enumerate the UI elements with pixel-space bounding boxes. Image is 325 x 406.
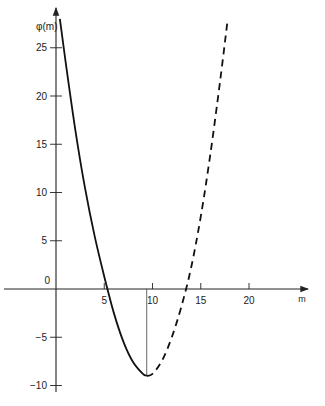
x-tick-label: 20	[243, 295, 255, 306]
y-axis-label: φ(m)	[36, 21, 57, 32]
x-axis-label: m	[298, 294, 306, 304]
y-tick-label: −10	[30, 380, 47, 391]
y-tick-label: 5	[41, 235, 47, 246]
labels: 5101520252015105−5−100φ(m)m	[30, 21, 306, 391]
series	[60, 19, 228, 376]
y-tick-label: 10	[36, 187, 48, 198]
solid-curve	[60, 19, 147, 376]
y-tick-label: 15	[36, 139, 48, 150]
y-tick-label: −5	[36, 332, 48, 343]
x-tick-label: 15	[195, 295, 207, 306]
phi-chart: 5101520252015105−5−100φ(m)m	[0, 0, 325, 406]
x-tick-label: 10	[147, 295, 159, 306]
x-tick-label: 5	[101, 295, 107, 306]
y-tick-label: 20	[36, 91, 48, 102]
dashed-curve	[147, 19, 228, 376]
y-tick-label: 25	[36, 42, 48, 53]
axes	[4, 8, 308, 392]
origin-label: 0	[44, 275, 50, 286]
